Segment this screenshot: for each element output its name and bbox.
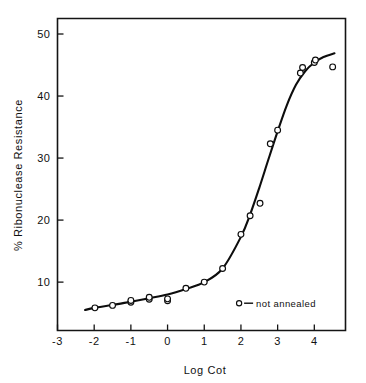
x-axis-ticks: -3-2-101234: [52, 325, 318, 347]
data-point-marker: [92, 305, 98, 311]
legend-marker-icon: [237, 301, 242, 306]
data-point-marker: [238, 231, 244, 237]
data-point-marker: [275, 127, 281, 133]
data-point-marker: [267, 141, 273, 147]
figure-container: -3-2-101234 1020304050 not annealed Log …: [0, 0, 366, 383]
data-point-marker: [247, 213, 253, 219]
data-point-marker: [165, 296, 171, 302]
data-point-marker: [297, 70, 303, 76]
legend-label: not annealed: [256, 298, 316, 309]
x-tick-label: -3: [52, 335, 63, 347]
chart-canvas: -3-2-101234 1020304050 not annealed Log …: [0, 0, 366, 383]
x-tick-label: 1: [201, 335, 208, 347]
y-tick-label: 40: [37, 90, 50, 102]
data-series-not-annealed: [85, 53, 336, 311]
data-point-marker: [300, 65, 306, 71]
data-markers: [92, 57, 336, 311]
x-tick-label: -2: [89, 335, 100, 347]
data-point-marker: [201, 279, 207, 285]
data-point-marker: [183, 285, 189, 291]
y-axis-ticks: 1020304050: [37, 28, 63, 288]
data-point-marker: [257, 200, 263, 206]
y-tick-label: 10: [37, 276, 50, 288]
fit-curve: [85, 53, 334, 310]
x-tick-label: 2: [238, 335, 245, 347]
y-axis-title: % Ribonuclease Resistance: [12, 99, 24, 251]
y-tick-label: 20: [37, 214, 50, 226]
y-tick-label: 30: [37, 152, 50, 164]
x-tick-label: 3: [274, 335, 281, 347]
x-tick-label: 4: [311, 335, 318, 347]
y-tick-label: 50: [37, 28, 50, 40]
data-point-marker: [146, 294, 152, 300]
data-point-marker: [220, 266, 226, 272]
legend: not annealed: [237, 298, 316, 309]
x-tick-label: -1: [125, 335, 136, 347]
x-tick-label: 0: [164, 335, 171, 347]
data-point-marker: [128, 298, 134, 304]
x-axis-title: Log Cot: [184, 364, 227, 376]
data-point-marker: [330, 64, 336, 70]
data-point-marker: [110, 302, 116, 308]
data-point-marker: [313, 57, 319, 63]
